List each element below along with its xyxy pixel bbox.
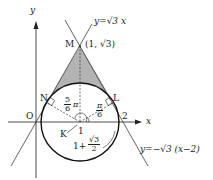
point-M <box>79 45 81 47</box>
diagram: y x O y=√3 x y=−√3 (x−2) M (1, √3) N L K… <box>0 0 213 180</box>
angle-arc-L <box>88 118 89 123</box>
point-L-label: L <box>113 94 119 103</box>
tick-2-label: 2 <box>122 112 128 121</box>
line-1-label: y=√3 x <box>94 17 126 26</box>
angle-N-label: 5 6 <box>64 96 71 113</box>
angle-N-pi: π <box>73 101 78 109</box>
point-K-label: K <box>60 130 67 139</box>
angle-L-label: π 6 <box>96 102 103 119</box>
annotation-fraction: √3 2 <box>88 136 100 153</box>
line-2-label: y=−√3 (x−2) <box>140 145 200 154</box>
x-axis-label: x <box>146 117 151 126</box>
origin-label: O <box>26 112 33 121</box>
point-N-label: N <box>40 94 48 103</box>
radius-pointer <box>103 131 115 148</box>
angle-arc-N <box>75 113 87 122</box>
tick-1-label: 1 <box>78 127 84 136</box>
k-pointer <box>67 125 77 133</box>
annotation-prefix: 1+ <box>73 142 86 151</box>
y-axis-arrow-icon <box>34 21 39 29</box>
point-M-label: M <box>65 40 74 49</box>
y-axis-label: y <box>30 6 35 15</box>
point-M-coords: (1, √3) <box>85 40 115 49</box>
x-axis-arrow-icon <box>135 120 142 125</box>
